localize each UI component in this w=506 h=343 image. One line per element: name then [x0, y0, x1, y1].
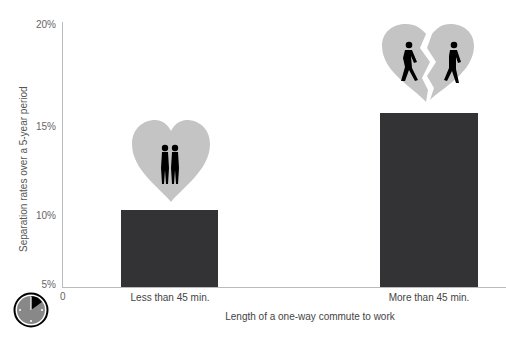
y-tick-10: 10% — [16, 210, 56, 221]
x-axis — [62, 287, 506, 288]
y-tick-20: 20% — [16, 19, 56, 30]
y-tick-5: 5% — [16, 279, 56, 290]
heart-couple-icon — [130, 118, 212, 204]
y-tick-15: 15% — [16, 121, 56, 132]
y-axis — [62, 22, 63, 288]
x-origin-label: 0 — [60, 291, 66, 302]
broken-heart-icon — [380, 22, 476, 104]
category-label-less: Less than 45 min. — [100, 292, 240, 303]
category-label-more: More than 45 min. — [359, 292, 499, 303]
bar-more-than-45 — [380, 113, 478, 287]
bar-less-than-45 — [121, 210, 218, 287]
y-axis-label: Separation rates over a 5-year period — [18, 86, 29, 252]
x-axis-label: Length of a one-way commute to work — [160, 311, 460, 322]
clock-icon — [13, 292, 49, 328]
